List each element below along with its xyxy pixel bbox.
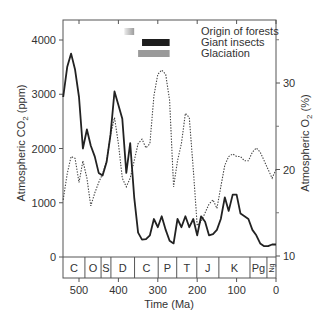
y-left-tick-label: 4000 — [32, 34, 56, 46]
y-left-tick-label: 2000 — [32, 143, 56, 155]
y-right-tick-label: 30 — [283, 77, 295, 89]
x-tick-label: 500 — [70, 284, 88, 296]
y-left-tick-label: 0 — [50, 251, 56, 263]
period-label: J — [205, 262, 211, 274]
period-label: S — [102, 262, 109, 274]
y-left-tick-label: 1000 — [32, 197, 56, 209]
x-tick-label: 300 — [149, 284, 167, 296]
x-tick-label: 100 — [227, 284, 245, 296]
y-left-tick-label: 3000 — [32, 88, 56, 100]
y-right-tick-label: 20 — [283, 164, 295, 176]
period-label: D — [119, 262, 127, 274]
x-axis-label: Time (Ma) — [144, 298, 194, 310]
o2-series-line — [63, 70, 276, 226]
geologic-period-band: COSDCPTJKPgNg — [70, 257, 276, 278]
period-label: T — [183, 262, 190, 274]
period-label: Pg — [252, 262, 265, 274]
x-tick-label: 400 — [109, 284, 127, 296]
legend-swatch — [124, 28, 134, 35]
co2-series-line — [63, 54, 276, 247]
period-label: P — [164, 262, 171, 274]
legend-swatch — [142, 39, 170, 46]
period-label: Ng — [268, 263, 276, 272]
y-right-tick-label: 10 — [283, 250, 295, 262]
period-label: C — [70, 262, 78, 274]
co2-o2-chart: COSDCPTJKPgNg 50040030020010000100020003… — [0, 0, 324, 325]
legend-bars — [124, 28, 169, 57]
legend-label-glaciation: Glaciation — [201, 47, 250, 59]
x-tick-label: 0 — [273, 284, 279, 296]
y-axis-right-label: Atmospheric O2 (%) — [299, 94, 314, 191]
period-label: K — [231, 262, 239, 274]
period-label: C — [142, 262, 150, 274]
x-tick-label: 200 — [188, 284, 206, 296]
y-axis-left-label: Atmospheric CO2 (ppm) — [15, 85, 30, 202]
period-label: O — [89, 262, 98, 274]
legend-swatch — [138, 50, 170, 57]
